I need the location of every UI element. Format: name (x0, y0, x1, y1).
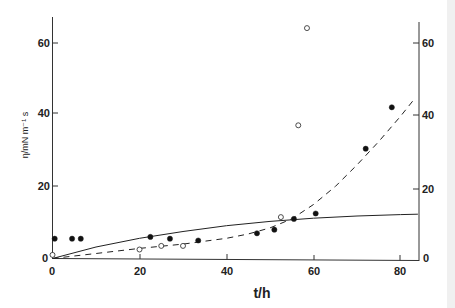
open-data-point (278, 215, 283, 220)
y-tick-label: 40 (38, 107, 50, 119)
right-y-tick-labels: 0 20 40 60 (422, 37, 434, 264)
y-tick-label: 0 (42, 252, 48, 264)
chart: 0 20 40 60 80 0 20 40 60 0 20 40 60 η/mN… (0, 0, 455, 308)
open-data-point (181, 243, 186, 248)
filled-data-point (69, 236, 74, 241)
filled-data-point (52, 236, 57, 241)
filled-data-point (363, 146, 368, 151)
page-edge (447, 0, 455, 308)
y-axis-label: η/mN m⁻¹ s (20, 111, 30, 158)
filled-data-point (167, 236, 172, 241)
filled-data-points (52, 105, 394, 243)
filled-data-point (254, 231, 259, 236)
x-tick-label: 40 (221, 265, 233, 277)
x-tick-labels: 0 20 40 60 80 (49, 265, 406, 277)
y-tick-label: 20 (38, 180, 50, 192)
open-data-point (159, 243, 164, 248)
dashed-fit-curve (53, 100, 414, 258)
y-tick-label: 20 (422, 183, 434, 195)
x-axis (53, 259, 420, 261)
open-data-points (50, 26, 309, 258)
open-data-point (137, 247, 142, 252)
open-data-point (304, 26, 309, 31)
x-tick-label: 0 (49, 265, 55, 277)
x-tick-label: 80 (394, 265, 406, 277)
x-tick-label: 20 (134, 265, 146, 277)
filled-data-point (78, 236, 83, 241)
filled-data-point (389, 105, 394, 110)
y-tick-label: 40 (422, 109, 434, 121)
y-tick-label: 60 (422, 37, 434, 49)
filled-data-point (148, 234, 153, 239)
open-data-point (296, 123, 301, 128)
filled-data-point (272, 227, 277, 232)
y-tick-label: 60 (38, 37, 50, 49)
open-data-point (50, 252, 55, 257)
filled-data-point (291, 216, 296, 221)
left-y-tick-labels: 0 20 40 60 (38, 37, 50, 264)
x-axis-label: t/h (253, 285, 270, 301)
y-tick-label: 0 (423, 252, 429, 264)
filled-data-point (196, 238, 201, 243)
filled-data-point (313, 211, 318, 216)
x-tick-label: 60 (308, 265, 320, 277)
